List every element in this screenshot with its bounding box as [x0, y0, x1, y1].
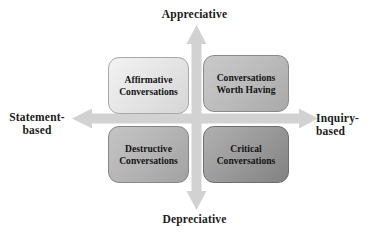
quadrant-affirmative-conversations: Affirmative Conversations — [108, 57, 189, 114]
conversations-matrix-diagram: Appreciative Depreciative Statement- bas… — [0, 0, 389, 233]
axis-label-appreciative: Appreciative — [0, 8, 389, 21]
axis-label-depreciative: Depreciative — [0, 213, 389, 226]
axis-label-statement-based: Statement- based — [6, 111, 68, 137]
axis-label-inquiry-based: Inquiry-based — [316, 112, 388, 138]
quadrant-destructive-conversations: Destructive Conversations — [108, 126, 189, 183]
quadrant-conversations-worth-having: Conversations Worth Having — [203, 55, 289, 112]
quadrant-critical-conversations: Critical Conversations — [203, 126, 289, 183]
